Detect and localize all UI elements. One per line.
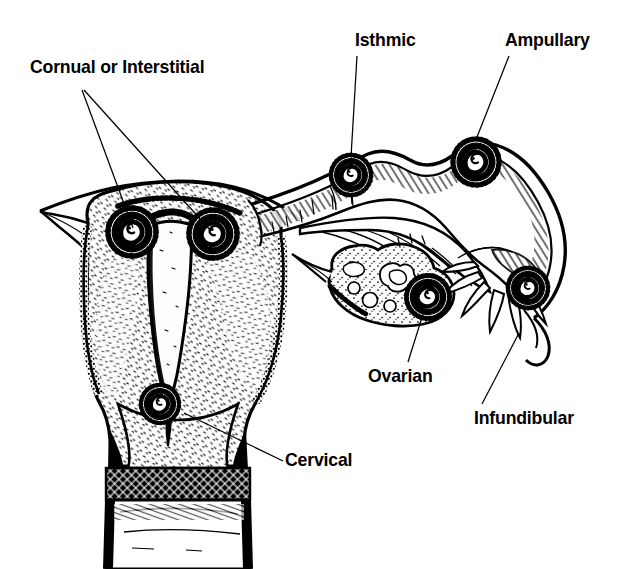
follicle (348, 282, 360, 294)
ectopic-pregnancy-figure: Cornual or Interstitial Isthmic Ampullar… (0, 0, 625, 569)
fimbria (489, 290, 504, 332)
vaginal-fornix-band (106, 468, 250, 500)
label-ovarian: Ovarian (368, 366, 433, 386)
label-isthmic: Isthmic (355, 30, 416, 50)
sac-isthmic (328, 152, 373, 197)
sac-infundibular (507, 267, 550, 310)
leader-infundibular (482, 333, 519, 404)
follicle (363, 293, 378, 308)
cervix-vagina (106, 400, 250, 569)
label-ampullary: Ampullary (505, 30, 590, 50)
sac-cervical (139, 383, 181, 425)
anatomical-illustration (0, 0, 625, 569)
ovarian-ligament (292, 254, 332, 282)
label-cornual: Cornual or Interstitial (30, 57, 204, 77)
follicle (384, 300, 396, 312)
label-cervical: Cervical (285, 450, 352, 470)
label-infundibular: Infundibular (474, 408, 574, 428)
leader-ampullary (477, 56, 509, 137)
leader-isthmic (351, 56, 357, 157)
